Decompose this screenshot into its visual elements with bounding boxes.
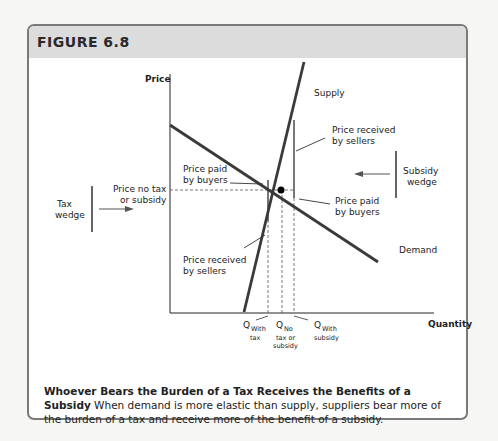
arrow-right-icon [125, 206, 134, 212]
equilibrium-point [278, 187, 285, 194]
supply-curve [244, 62, 304, 312]
svg-text:Q: Q [276, 320, 283, 330]
svg-text:subsidy: subsidy [314, 334, 339, 342]
q-no-tax-label: Q No tax or subsidy [273, 320, 298, 350]
leader-line [296, 138, 325, 151]
subsidy-wedge-label-2: wedge [407, 177, 437, 187]
y-axis-label: Price [145, 74, 171, 84]
subsidy-wedge-label: Subsidy [403, 166, 439, 176]
price-paid-buyers-left-2: by buyers [183, 175, 228, 185]
leader-line [299, 199, 330, 204]
price-paid-buyers-right-2: by buyers [335, 207, 380, 217]
leader-line [294, 316, 308, 320]
svg-text:No: No [284, 325, 293, 333]
supply-label: Supply [314, 88, 345, 98]
figure-caption: Whoever Bears the Burden of a Tax Receiv… [44, 384, 444, 426]
price-received-sellers-bottom: Price received [183, 255, 246, 265]
x-axis-label: Quantity [428, 319, 472, 329]
svg-text:tax: tax [250, 334, 261, 342]
svg-text:Q: Q [314, 320, 321, 330]
demand-label: Demand [399, 245, 437, 255]
price-received-sellers-top-2: by sellers [332, 136, 375, 146]
svg-text:Q: Q [243, 320, 250, 330]
svg-text:subsidy: subsidy [273, 342, 298, 350]
svg-text:tax or: tax or [276, 334, 295, 342]
svg-text:With: With [322, 325, 337, 333]
svg-text:With: With [251, 325, 266, 333]
q-with-tax-label: Q With tax [243, 320, 266, 342]
price-paid-buyers-right: Price paid [335, 196, 379, 206]
caption-text: When demand is more elastic than supply,… [44, 399, 441, 425]
price-received-sellers-bottom-2: by sellers [183, 266, 226, 276]
leader-line [256, 316, 268, 320]
q-with-subsidy-label: Q With subsidy [314, 320, 339, 342]
supply-demand-chart: Price Quantity Supply Demand Price recei… [0, 0, 498, 441]
price-no-tax-label-2: or subsidy [120, 195, 167, 205]
price-paid-buyers-left: Price paid [183, 164, 227, 174]
price-no-tax-label: Price no tax [113, 184, 167, 194]
price-received-sellers-top: Price received [332, 125, 395, 135]
tax-wedge-label-2: wedge [55, 210, 85, 220]
tax-wedge-label: Tax [56, 199, 73, 209]
arrow-left-icon [354, 171, 363, 177]
